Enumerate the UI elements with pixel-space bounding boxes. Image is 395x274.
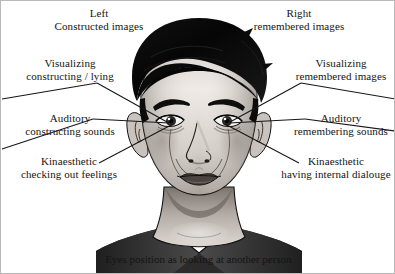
cue-visual-constructing: Visualizing constructing / lying [7,57,133,83]
neck [153,187,245,247]
cue-visual-remembering-line1: Visualizing [289,57,393,70]
cue-auditory-remembering-line1: Auditory [289,112,393,125]
cue-visual-constructing-line1: Visualizing [7,57,133,70]
diagram-caption: Eyes position as looking at another pers… [1,253,395,265]
cue-kinaesthetic-feelings-line2: checking out feelings [5,168,133,181]
header-right: Right remembered images [239,7,359,33]
cue-kinaesthetic-dialogue-line1: Kinaesthetic [279,155,393,168]
leader-extend-left-upper [2,83,97,99]
cue-auditory-constructing: Auditory constructing sounds [7,112,133,138]
cue-visual-constructing-line2: constructing / lying [7,70,133,83]
diagram-canvas: Left Constructed images Right remembered… [0,0,395,274]
header-left: Left Constructed images [39,7,159,33]
cue-auditory-constructing-line2: constructing sounds [7,125,133,138]
cue-kinaesthetic-dialogue-line2: having internal dialouge [279,168,393,181]
cue-kinaesthetic-dialogue: Kinaesthetic having internal dialouge [279,155,393,181]
header-left-line2: Constructed images [39,20,159,33]
header-right-line1: Right [239,7,359,20]
cue-visual-remembering-line2: remembered images [289,70,393,83]
cue-kinaesthetic-feelings: Kinaesthetic checking out feelings [5,155,133,181]
leader-extend-right-upper [301,83,395,99]
header-left-line1: Left [39,7,159,20]
cue-visual-remembering: Visualizing remembered images [289,57,393,83]
cue-kinaesthetic-feelings-line1: Kinaesthetic [5,155,133,168]
cue-auditory-remembering-line2: remembering sounds [289,125,393,138]
cue-auditory-constructing-line1: Auditory [7,112,133,125]
header-right-line2: remembered images [239,20,359,33]
cue-auditory-remembering: Auditory remembering sounds [289,112,393,138]
